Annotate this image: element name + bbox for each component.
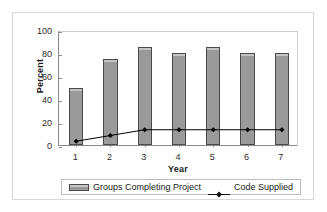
y-axis-tick: 40 [18, 96, 52, 105]
y-axis-tick: 20 [18, 119, 52, 128]
x-axis-tick: 6 [232, 153, 262, 162]
legend-item-groups-completing-project: Groups Completing Project [69, 183, 201, 192]
x-axis-tick: 5 [197, 153, 227, 162]
line-series-code-supplied [59, 32, 299, 147]
legend-label: Code Supplied [234, 183, 293, 192]
x-axis-tick: 4 [163, 153, 193, 162]
y-axis-tick: 60 [18, 73, 52, 82]
data-point-marker [176, 127, 181, 132]
line-marker-swatch-icon [208, 184, 230, 191]
chart-legend: Groups Completing Project Code Supplied [61, 179, 301, 195]
legend-item-code-supplied: Code Supplied [208, 183, 293, 192]
x-axis-label: Year [58, 164, 298, 174]
chart-figure: Percent Year 020406080100 1234567 Groups… [12, 12, 314, 200]
bar-swatch-icon [69, 184, 89, 191]
x-axis-tick: 1 [60, 153, 90, 162]
data-point-marker [74, 139, 79, 144]
x-axis-tick: 7 [266, 153, 296, 162]
data-point-marker [279, 127, 284, 132]
plot-area [58, 31, 298, 146]
data-point-marker [108, 133, 113, 138]
y-axis-tick: 0 [18, 142, 52, 151]
legend-label: Groups Completing Project [93, 183, 201, 192]
y-axis-tick-mark [59, 147, 62, 148]
y-axis-tick: 100 [18, 27, 52, 36]
data-point-marker [142, 127, 147, 132]
y-axis-tick: 80 [18, 50, 52, 59]
data-point-marker [211, 127, 216, 132]
data-point-marker [245, 127, 250, 132]
x-axis-tick: 3 [129, 153, 159, 162]
x-axis-tick: 2 [94, 153, 124, 162]
